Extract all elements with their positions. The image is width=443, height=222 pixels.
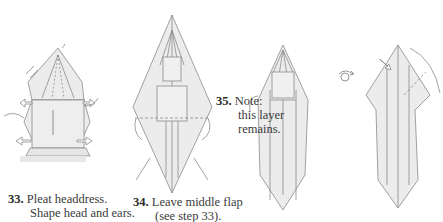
figure-36 <box>366 45 440 208</box>
step-33-caption: 33. Pleat headdress. Shape head and ears… <box>8 192 135 220</box>
step-number: 35. <box>216 94 232 108</box>
step-text-line2: Shape head and ears. <box>8 206 135 220</box>
step-text-line1: Note: <box>235 94 263 108</box>
step-text-line1: Leave middle flap <box>152 195 243 209</box>
step-number: 34. <box>133 195 149 209</box>
step-34-caption: 34. Leave middle flap (see step 33). <box>133 195 243 222</box>
step-number: 33. <box>8 192 24 206</box>
step-text-line2: this layer <box>216 108 284 122</box>
turn-over-icon <box>339 71 354 81</box>
step-text-line2: (see step 33). <box>133 209 243 222</box>
figure-33 <box>4 44 98 162</box>
step-text-line3: remains. <box>216 122 284 136</box>
step-35-caption: 35. Note: this layer remains. <box>216 94 284 136</box>
step-text-line1: Pleat headdress. <box>27 192 108 206</box>
figure-34 <box>133 15 212 193</box>
